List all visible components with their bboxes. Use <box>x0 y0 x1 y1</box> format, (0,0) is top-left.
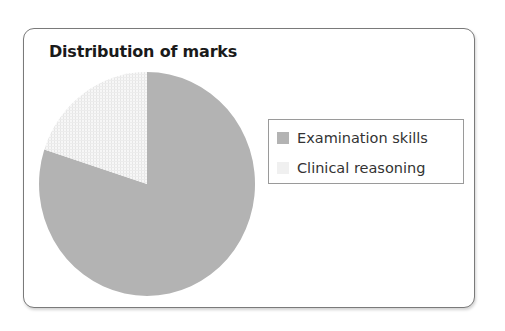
legend-swatch-icon <box>277 162 289 174</box>
legend-label: Clinical reasoning <box>297 160 425 176</box>
chart-legend: Examination skills Clinical reasoning <box>268 119 464 184</box>
legend-item-examination-skills: Examination skills <box>277 128 428 148</box>
legend-label: Examination skills <box>297 130 428 146</box>
chart-frame: Distribution of marks Examination skills… <box>23 28 475 308</box>
legend-item-clinical-reasoning: Clinical reasoning <box>277 158 425 178</box>
legend-swatch-icon <box>277 132 289 144</box>
